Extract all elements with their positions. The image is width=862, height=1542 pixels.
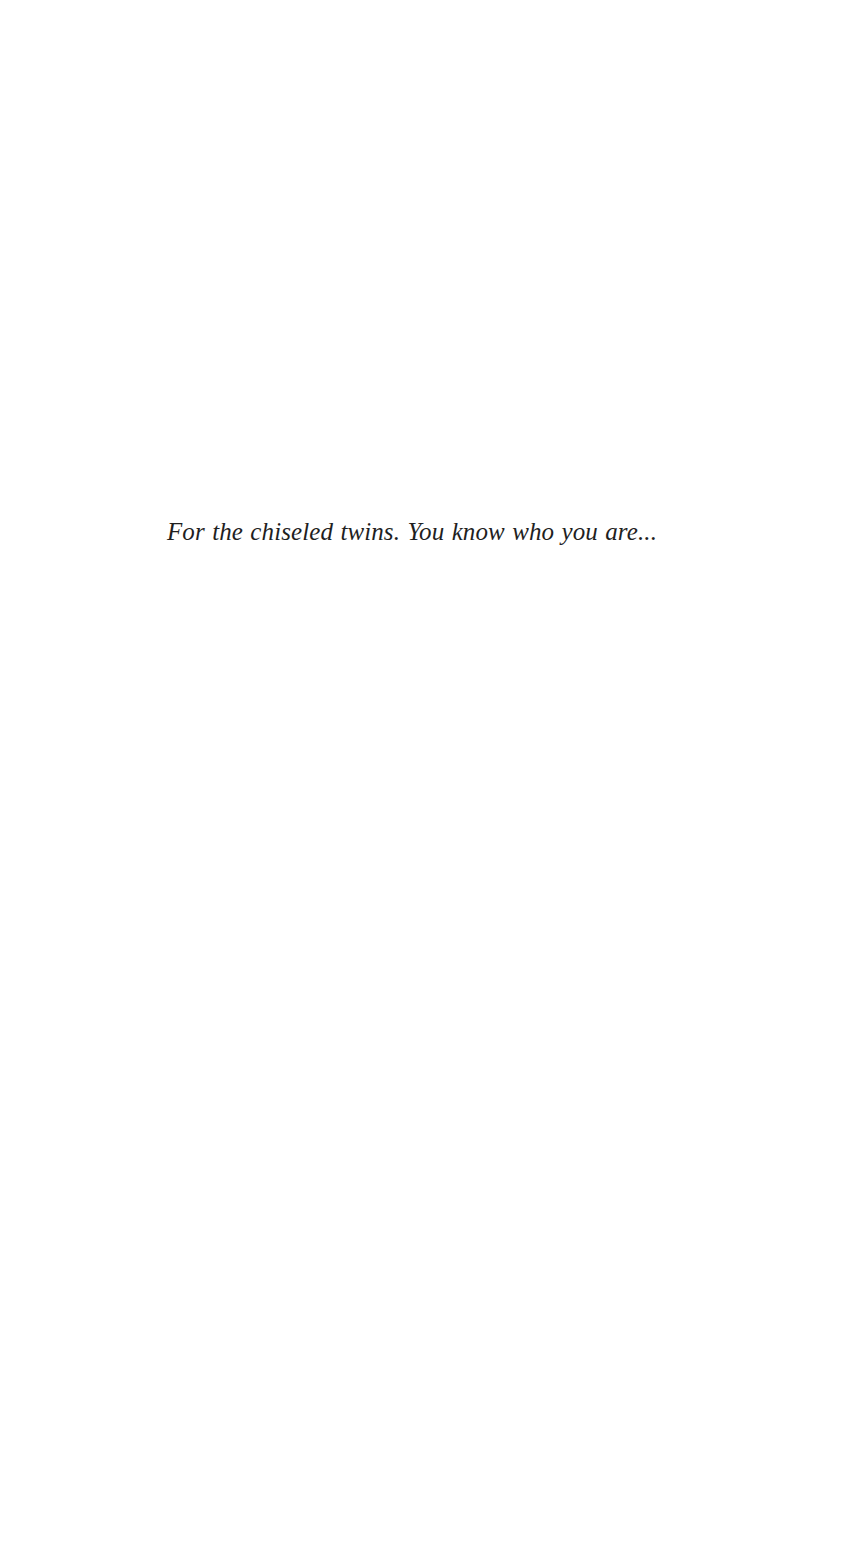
dedication-text: For the chiseled twins. You know who you… <box>167 514 677 550</box>
book-page: For the chiseled twins. You know who you… <box>0 0 862 1542</box>
